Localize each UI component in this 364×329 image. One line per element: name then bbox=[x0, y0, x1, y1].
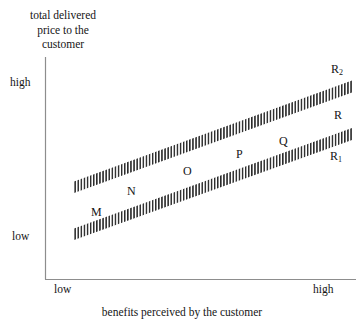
label-P: P bbox=[236, 147, 243, 162]
label-M: M bbox=[91, 205, 102, 220]
band-lower-R1 bbox=[74, 128, 352, 240]
label-R2-subscript: 2 bbox=[339, 68, 343, 77]
label-R1-subscript: 1 bbox=[338, 155, 342, 164]
label-R2-base: R bbox=[331, 62, 339, 76]
chart-figure: total delivered price to the customer hi… bbox=[0, 0, 364, 329]
label-N: N bbox=[127, 184, 136, 199]
label-R1-base: R bbox=[330, 149, 338, 163]
label-R2: R2 bbox=[331, 62, 343, 77]
label-R1: R1 bbox=[330, 149, 342, 164]
label-O: O bbox=[183, 164, 192, 179]
label-R: R bbox=[334, 108, 342, 123]
plot-area bbox=[0, 0, 364, 329]
band-upper-R2 bbox=[74, 81, 352, 194]
label-Q: Q bbox=[279, 134, 288, 149]
x-axis-title: benefits perceived by the customer bbox=[0, 306, 364, 318]
